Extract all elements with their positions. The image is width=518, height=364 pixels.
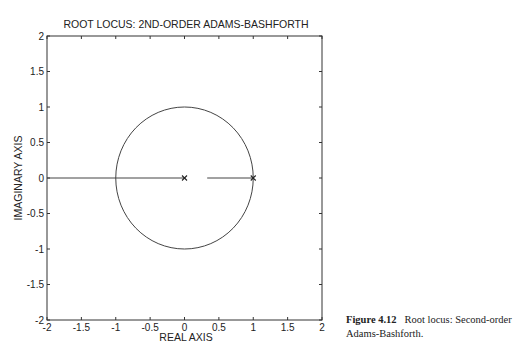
x-tick-label: -1.5 — [73, 322, 91, 333]
y-tick-label: 1 — [38, 102, 44, 113]
x-axis-label: REAL AXIS — [159, 331, 212, 343]
y-tick-label: 0 — [38, 173, 44, 184]
x-tick-label: 2 — [319, 322, 325, 333]
x-tick-label: 0.5 — [212, 322, 226, 333]
y-tick-label: 2 — [38, 31, 44, 42]
chart-title: ROOT LOCUS: 2ND-ORDER ADAMS-BASHFORTH — [63, 18, 308, 30]
figure-number: Figure 4.12 — [346, 314, 397, 325]
y-axis-label: IMAGINARY AXIS — [12, 136, 24, 221]
y-tick-label: 1.5 — [30, 66, 44, 77]
tick-labels: -2-1.5-1-0.500.511.52-2-1.5-1-0.500.511.… — [27, 31, 325, 334]
x-tick-label: -1 — [111, 322, 120, 333]
y-tick-label: -0.5 — [27, 208, 45, 219]
y-tick-label: -1 — [35, 244, 44, 255]
plot-area — [47, 107, 256, 249]
y-tick-label: -2 — [35, 315, 44, 326]
root-locus-figure: ROOT LOCUS: 2ND-ORDER ADAMS-BASHFORTH -2… — [0, 0, 518, 364]
x-tick-label: 1 — [250, 322, 256, 333]
y-tick-label: 0.5 — [30, 137, 44, 148]
x-tick-label: -0.5 — [142, 322, 160, 333]
x-tick-label: 1.5 — [281, 322, 295, 333]
figure-caption: Figure 4.12 Root locus: Second-order Ada… — [346, 313, 516, 341]
y-tick-label: -1.5 — [27, 279, 45, 290]
